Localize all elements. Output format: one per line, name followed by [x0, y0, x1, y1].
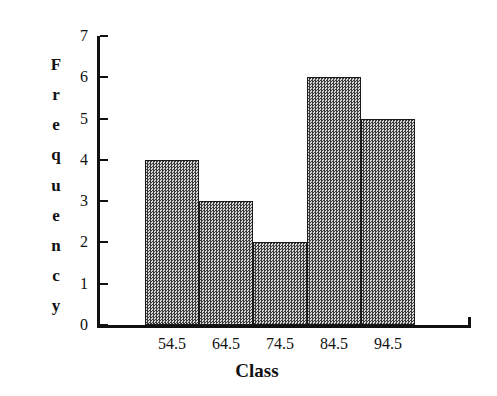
y-axis-tick-label: 3: [80, 193, 88, 209]
x-axis-tick-label: 94.5: [374, 336, 402, 352]
y-axis-title-letter: n: [51, 237, 60, 254]
x-axis-line: [97, 325, 471, 328]
bar-series: [97, 36, 471, 325]
x-axis-title: Class: [97, 361, 417, 380]
histogram-bar: [253, 242, 307, 325]
y-axis-title-letter: u: [51, 177, 60, 194]
y-axis-title: F r e q u e n c y: [41, 56, 71, 314]
histogram-bar: [307, 77, 361, 325]
y-axis-title-letter: e: [52, 207, 60, 224]
y-axis-title-letter: e: [52, 116, 60, 133]
histogram-bar: [199, 201, 253, 325]
histogram-figure: F r e q u e n c y 01234567 54.564.574.58…: [0, 0, 497, 396]
y-axis-title-letter: F: [51, 56, 61, 73]
x-axis-tick-label: 64.5: [212, 336, 240, 352]
y-axis-tick-label: 7: [80, 28, 88, 44]
x-axis-tick-label: 54.5: [158, 336, 186, 352]
histogram-bar: [361, 119, 415, 325]
y-axis-tick-label: 4: [80, 152, 88, 168]
histogram-bar: [145, 160, 199, 325]
y-axis-title-letter: y: [52, 297, 61, 314]
y-axis-title-letter: r: [52, 86, 60, 103]
x-axis-tick-label: 74.5: [266, 336, 294, 352]
y-axis-title-letter: q: [51, 146, 60, 163]
y-axis-tick-label: 1: [80, 276, 88, 292]
y-axis-tick-label: 0: [80, 317, 88, 333]
y-axis-tick-label: 5: [80, 111, 88, 127]
plot-area: 01234567 54.564.574.584.594.5 Class: [97, 36, 471, 328]
y-axis-tick-label: 2: [80, 234, 88, 250]
x-axis-tick-label: 84.5: [320, 336, 348, 352]
y-axis-title-letter: c: [52, 267, 60, 284]
y-axis-tick-label: 6: [80, 69, 88, 85]
